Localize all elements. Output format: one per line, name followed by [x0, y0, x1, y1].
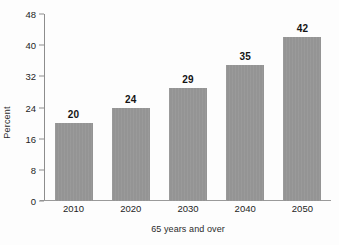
bar[interactable] — [112, 108, 150, 202]
bar-group: 35 — [226, 14, 264, 201]
y-tick-label: 48 — [14, 9, 36, 20]
y-tick-label: 40 — [14, 40, 36, 51]
y-axis-tick-labels: 081624324048 — [14, 0, 36, 245]
bar-value-label: 20 — [55, 109, 93, 120]
x-tick-label: 2010 — [55, 203, 93, 214]
x-tick-label: 2040 — [226, 203, 264, 214]
bar-value-label: 24 — [112, 94, 150, 105]
y-tick-label: 0 — [14, 196, 36, 207]
y-tick-label: 16 — [14, 133, 36, 144]
y-tick-mark — [39, 76, 44, 77]
plot-area: 2024293542 — [45, 14, 331, 201]
bar-group: 20 — [55, 14, 93, 201]
bar-value-label: 35 — [226, 51, 264, 62]
y-tick-label: 24 — [14, 102, 36, 113]
x-tick-label: 2030 — [169, 203, 207, 214]
y-axis-title: Percent — [0, 0, 14, 245]
x-axis-title: 65 years and over — [45, 224, 331, 234]
y-tick-mark — [39, 201, 44, 202]
x-tick-label: 2050 — [283, 203, 321, 214]
y-tick-label: 8 — [14, 164, 36, 175]
x-tick-label: 2020 — [112, 203, 150, 214]
bar-group: 29 — [169, 14, 207, 201]
bar-chart: Percent 081624324048 2024293542 20102020… — [0, 0, 339, 245]
bar-value-label: 42 — [283, 23, 321, 34]
bar[interactable] — [169, 88, 207, 201]
bar-value-label: 29 — [169, 74, 207, 85]
bar-group: 42 — [283, 14, 321, 201]
y-tick-mark — [39, 169, 44, 170]
bar[interactable] — [55, 123, 93, 201]
x-axis-tick-labels: 20102020203020402050 — [45, 203, 331, 219]
y-tick-mark — [39, 45, 44, 46]
y-tick-mark — [39, 138, 44, 139]
bar[interactable] — [226, 65, 264, 201]
y-tick-mark — [39, 107, 44, 108]
y-tick-mark — [39, 14, 44, 15]
bar-group: 24 — [112, 14, 150, 201]
y-tick-label: 32 — [14, 71, 36, 82]
bar[interactable] — [283, 37, 321, 201]
